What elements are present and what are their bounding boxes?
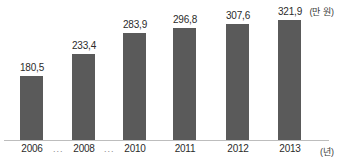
- bar-group-2013: 321,9: [264, 0, 316, 141]
- unit-annotation-top: (만 원): [310, 5, 335, 18]
- bar-2008[interactable]: [72, 54, 95, 140]
- x-tick-2010: 2010: [109, 143, 161, 154]
- x-tick-2011: 2011: [159, 143, 211, 154]
- bar-2010[interactable]: [123, 33, 146, 140]
- x-axis-line: [4, 140, 329, 141]
- bar-2011[interactable]: [173, 28, 196, 140]
- x-tick-2013: 2013: [264, 143, 316, 154]
- bar-value-label: 321,9: [264, 6, 316, 17]
- bar-value-label: 307,6: [212, 10, 264, 21]
- bar-2006[interactable]: [20, 76, 43, 140]
- bar-2012[interactable]: [226, 24, 249, 140]
- bar-value-label: 296,8: [159, 14, 211, 25]
- unit-annotation-bottom: (년): [320, 145, 334, 158]
- bar-2013[interactable]: [278, 20, 301, 140]
- bar-value-label: 283,9: [109, 19, 161, 30]
- x-tick-2012: 2012: [212, 143, 264, 154]
- bar-group-2008: 233,4: [58, 0, 110, 141]
- bar-group-2012: 307,6: [212, 0, 264, 141]
- bar-value-label: 233,4: [58, 40, 110, 51]
- bar-group-2006: 180,5: [6, 0, 58, 141]
- bar-group-2010: 283,9: [109, 0, 161, 141]
- bar-group-2011: 296,8: [159, 0, 211, 141]
- x-axis-labels: 2006 ··· 2008 ··· 2010 2011 2012 2013 (년…: [0, 143, 337, 164]
- bar-chart: 180,5 233,4 283,9 296,8 307,6 321,9 (만 원…: [0, 0, 337, 164]
- plot-area: 180,5 233,4 283,9 296,8 307,6 321,9 (만 원…: [0, 0, 337, 141]
- bar-value-label: 180,5: [6, 62, 58, 73]
